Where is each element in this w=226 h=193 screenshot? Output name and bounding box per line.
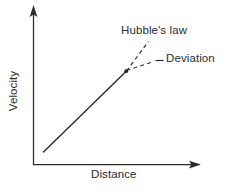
deviation-annotation-label: Deviation [166, 53, 215, 65]
hubble-law-annotation-label: Hubble's law [121, 25, 187, 37]
observed-relation-line [44, 72, 127, 153]
branch-point-marker [124, 69, 128, 73]
figure-canvas [0, 0, 226, 193]
hubble-law-dashed-line [127, 42, 149, 72]
y-axis-label: Velocity [8, 71, 20, 111]
x-axis-label: Distance [91, 169, 137, 181]
y-axis-group [30, 5, 38, 165]
hubble-law-figure: Hubble's law Deviation Distance Velocity [0, 0, 226, 193]
deviation-dashed-line [127, 63, 152, 71]
